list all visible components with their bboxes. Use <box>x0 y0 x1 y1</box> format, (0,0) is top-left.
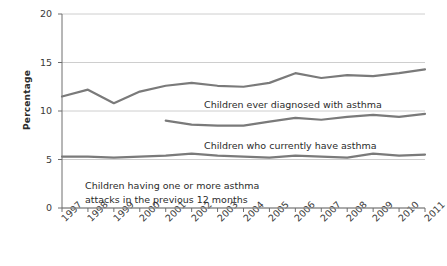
series-line-2 <box>62 154 425 158</box>
series-annotation-3: attacks in the previous 12 months <box>85 194 248 205</box>
series-annotation-2: Children having one or more asthma <box>85 180 259 191</box>
series-annotation-1: Children who currently have asthma <box>204 140 377 151</box>
series-line-1 <box>166 114 425 126</box>
series-annotation-0: Children ever diagnosed with asthma <box>204 99 382 110</box>
gridlines <box>62 14 425 208</box>
